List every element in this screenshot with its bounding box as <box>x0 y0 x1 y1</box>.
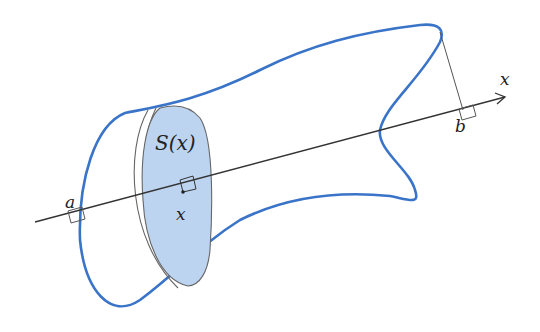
x-axis <box>35 97 505 222</box>
perp-b <box>440 32 463 110</box>
volume-diagram: a x S(x) b x <box>0 0 540 332</box>
label-a: a <box>65 192 75 212</box>
label-axis: x <box>500 69 510 89</box>
label-section: S(x) <box>155 131 196 155</box>
point-x <box>181 190 185 194</box>
label-b: b <box>455 116 466 136</box>
label-x-point: x <box>176 204 186 224</box>
